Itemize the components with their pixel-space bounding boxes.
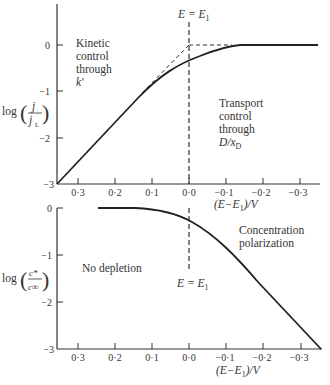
bottom-ytick-0: 0 xyxy=(47,203,52,214)
kinetic-annotation: Kinetic control through k' xyxy=(76,37,112,88)
bottom-xtick: −0·3 xyxy=(290,352,309,363)
top-xtick: 0·2 xyxy=(108,187,121,198)
bottom-ytick-3: −3 xyxy=(43,344,54,355)
bottom-panel: 0 −1 −2 −3 0·3 0·2 0·1 0·0 −0·1 −0·2 −0·… xyxy=(2,203,322,379)
top-xlabel: (E−E1)/V xyxy=(214,198,260,213)
svg-text:Kinetic: Kinetic xyxy=(76,37,110,49)
svg-text:L: L xyxy=(35,121,39,129)
bottom-xtick: 0·0 xyxy=(182,352,195,363)
top-vline-label: E = E1 xyxy=(177,8,210,23)
kinetic-asymptote xyxy=(142,45,189,93)
svg-text:D/xD: D/xD xyxy=(218,136,242,151)
top-xtick: 0·0 xyxy=(182,187,195,198)
svg-text:k': k' xyxy=(76,76,84,88)
svg-text:control: control xyxy=(76,50,109,62)
svg-text:through: through xyxy=(76,63,112,76)
diagram-figure: 0 −1 −2 −3 0·3 0·2 0·1 0·0 −0·1 −0·2 −0·… xyxy=(0,0,330,385)
svg-text:): ) xyxy=(42,267,49,292)
bottom-ytick-1: −1 xyxy=(41,250,52,261)
bottom-ytick-2: −2 xyxy=(41,297,52,308)
top-xtick: −0·1 xyxy=(215,187,234,198)
svg-text:log: log xyxy=(2,105,17,118)
no-depletion-label: No depletion xyxy=(82,262,142,275)
bottom-ylabel: log ( c* c∞ ) xyxy=(2,267,49,292)
bottom-xlabel: (E−E1)/V xyxy=(216,364,262,379)
transport-annotation: Transport control through D/xD xyxy=(218,97,264,151)
bottom-xtick: 0·1 xyxy=(145,352,158,363)
svg-text:polarization: polarization xyxy=(239,237,294,250)
svg-text:j: j xyxy=(27,114,32,127)
concentration-polarization-label: Concentration polarization xyxy=(239,224,304,250)
svg-text:c*: c* xyxy=(29,268,38,278)
svg-text:(: ( xyxy=(20,100,27,125)
svg-text:c∞: c∞ xyxy=(28,282,38,292)
top-xtick: −0·2 xyxy=(252,187,271,198)
top-xtick: 0·1 xyxy=(145,187,158,198)
svg-text:Transport: Transport xyxy=(219,97,264,110)
top-ytick-2: −2 xyxy=(39,133,50,144)
top-xtick: −0·3 xyxy=(289,187,308,198)
bottom-xtick: 0·2 xyxy=(108,352,121,363)
top-ytick-1: −1 xyxy=(39,86,50,97)
svg-text:through: through xyxy=(219,123,255,136)
svg-text:log: log xyxy=(2,272,17,285)
svg-text:): ) xyxy=(42,100,49,125)
svg-text:j: j xyxy=(30,100,35,113)
svg-text:(: ( xyxy=(20,267,27,292)
top-ytick-3: −3 xyxy=(43,179,54,190)
svg-text:control: control xyxy=(219,110,252,122)
svg-text:Concentration: Concentration xyxy=(239,224,304,236)
bottom-xtick: −0·1 xyxy=(216,352,235,363)
top-ylabel: log ( j j L ) xyxy=(2,100,49,129)
bottom-vline-label: E = E1 xyxy=(176,277,209,292)
top-panel: 0 −1 −2 −3 0·3 0·2 0·1 0·0 −0·1 −0·2 −0·… xyxy=(2,4,320,213)
top-ytick-0: 0 xyxy=(45,40,50,51)
bottom-xtick: 0·3 xyxy=(71,352,84,363)
bottom-xtick: −0·2 xyxy=(253,352,272,363)
top-xtick: 0·3 xyxy=(71,187,84,198)
